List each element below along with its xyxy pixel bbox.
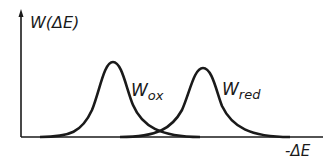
w-ox-label: Wox (131, 80, 164, 103)
w-red-curve (120, 68, 290, 137)
y-axis-label: W(ΔE) (30, 13, 79, 32)
w-ox-curve (40, 62, 200, 137)
y-axis-arrow-icon (19, 9, 24, 17)
distribution-diagram: W(ΔE) -ΔE Wox Wred (0, 0, 336, 166)
w-red-label: Wred (222, 79, 261, 102)
x-axis-label: -ΔE (285, 142, 311, 160)
